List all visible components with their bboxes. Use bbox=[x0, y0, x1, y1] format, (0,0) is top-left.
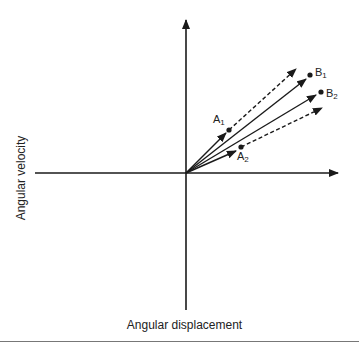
dashed-vector-lower bbox=[241, 108, 322, 147]
point-dot-A2 bbox=[238, 144, 243, 149]
point-dot-A1 bbox=[226, 127, 231, 132]
dashed-vector-upper bbox=[229, 69, 296, 130]
point-label-A1: A1 bbox=[213, 113, 225, 127]
point-subscript: 1 bbox=[322, 71, 326, 80]
point-label-A2: A2 bbox=[237, 150, 249, 164]
point-dot-B1 bbox=[307, 72, 312, 77]
phase-plane-diagram bbox=[0, 0, 359, 348]
point-label-B1: B1 bbox=[315, 66, 327, 80]
point-label-B2: B2 bbox=[326, 87, 338, 101]
point-subscript: 1 bbox=[220, 118, 224, 127]
solid-vector-to-B2 bbox=[186, 95, 316, 173]
point-subscript: 2 bbox=[333, 92, 337, 101]
point-dot-B2 bbox=[318, 89, 323, 94]
y-axis-label: Angular velocity bbox=[14, 136, 28, 221]
point-subscript: 2 bbox=[244, 155, 248, 164]
bottom-divider bbox=[0, 341, 359, 342]
x-axis-label: Angular displacement bbox=[0, 318, 359, 332]
